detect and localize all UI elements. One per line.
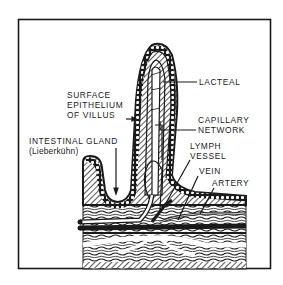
- label-intestinal-gland: INTESTINAL GLAND (Lieberkühn): [29, 136, 118, 156]
- label-lymph-vessel: LYMPH VESSEL: [190, 141, 226, 161]
- label-artery: ARTERY: [212, 178, 249, 188]
- label-surface-epithelium: SURFACE EPITHELIUM OF VILLUS: [67, 90, 123, 120]
- submucosa-layer: [83, 205, 246, 269]
- vein-vessel: [80, 226, 246, 228]
- diagram-stage: LACTEAL SURFACE EPITHELIUM OF VILLUS CAP…: [0, 0, 283, 285]
- lacteal-channel: [152, 67, 160, 195]
- label-capillary-network: CAPILLARY NETWORK: [198, 115, 249, 135]
- label-lacteal: LACTEAL: [199, 77, 240, 87]
- label-vein: VEIN: [199, 166, 221, 176]
